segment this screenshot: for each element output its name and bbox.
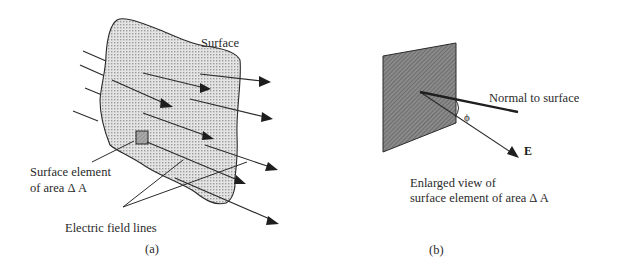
field-label: E	[524, 144, 532, 158]
field-line-stub	[85, 88, 102, 95]
field-line-stub	[73, 111, 98, 121]
normal-label: Normal to surface	[489, 91, 580, 105]
field-vector-arrowhead-icon	[507, 146, 519, 158]
figure-a: Surface Surface element of area Δ A Elec…	[30, 19, 279, 256]
arrowhead-icon	[234, 175, 246, 184]
arrowhead-icon	[261, 112, 273, 122]
caption-a: (a)	[145, 242, 159, 256]
flux-diagram: Surface Surface element of area Δ A Elec…	[0, 0, 622, 276]
field-line-stub	[80, 65, 107, 77]
arrowhead-icon	[259, 76, 271, 87]
description-line1: Enlarged view of	[410, 176, 497, 190]
surface-element	[136, 131, 148, 144]
surface-label: Surface	[201, 36, 240, 50]
caption-b: (b)	[429, 243, 444, 257]
element-label-line1: Surface element	[30, 165, 111, 179]
field-lines-label: Electric field lines	[65, 221, 157, 235]
arrowhead-icon	[266, 216, 279, 225]
arrowhead-icon	[265, 162, 278, 171]
description-line2: surface element of area Δ A	[410, 191, 549, 205]
angle-label: ϕ	[464, 111, 470, 123]
element-label-line2: of area Δ A	[30, 181, 87, 195]
field-line-stub	[83, 51, 106, 61]
figure-b: Normal to surface ϕ E Enlarged view of s…	[383, 43, 580, 257]
